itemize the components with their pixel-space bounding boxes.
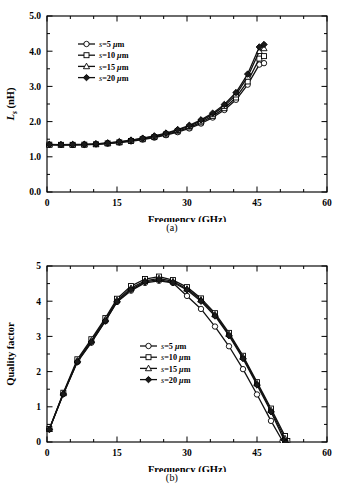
legend-label: s=5 μm [161,342,187,351]
y-tick-label: 4.0 [29,47,41,57]
series-marker [262,54,267,59]
svg-text:Quality factor: Quality factor [5,322,16,386]
legend-marker [146,343,151,348]
y-axis-title: Quality factor [5,322,16,386]
series-marker [212,324,217,329]
y-tick-label: 1 [36,402,41,412]
x-tick-labels: 015304560 [45,198,332,208]
series-marker [226,344,231,349]
series-marker [198,306,203,311]
legend-label: s=10 μm [99,51,129,60]
y-tick-label: 3.0 [29,82,41,92]
y-tick-label: 3 [36,332,41,342]
legend-label: s=20 μm [99,74,129,83]
legend-label: s=15 μm [161,365,191,374]
y-tick-label: 0.0 [29,187,41,197]
chart-panel-b: 015304560012345Frequency (GHz)Quality fa… [0,250,344,500]
legend-label: s=15 μm [99,63,129,72]
legend-marker [146,355,151,360]
y-tick-label: 2 [36,367,41,377]
y-tick-label: 5 [36,261,41,271]
x-tick-label: 0 [45,448,50,458]
legend-label: s=5 μm [99,40,125,49]
legend-marker [84,41,89,46]
legend-label: s=10 μm [161,353,191,362]
series-marker [240,366,245,371]
inductance-chart: 0153045600.01.02.03.04.05.0Frequency (GH… [0,0,344,222]
x-tick-labels: 015304560 [45,448,332,458]
x-tick-label: 45 [252,198,262,208]
y-tick-label: 4 [36,297,41,307]
x-axis-title: Frequency (GHz) [148,214,227,222]
legend-marker [84,53,89,58]
caption-a: (a) [0,222,344,233]
x-tick-label: 0 [45,198,50,208]
quality-factor-chart: 015304560012345Frequency (GHz)Quality fa… [0,250,344,472]
x-tick-label: 60 [322,448,332,458]
caption-b: (b) [0,472,344,483]
series-marker [268,418,273,423]
x-tick-label: 15 [112,448,122,458]
x-tick-label: 45 [252,448,262,458]
y-tick-label: 2.0 [29,117,41,127]
series-marker [254,392,259,397]
y-tick-label: 0 [36,437,41,447]
x-tick-label: 30 [182,448,192,458]
legend-label: s=20 μm [161,376,191,385]
figure-container: 0153045600.01.02.03.04.05.0Frequency (GH… [0,0,344,500]
y-axis-title: Ls (nH) [5,87,19,121]
x-tick-label: 15 [112,198,122,208]
series-marker [184,293,189,298]
chart-panel-a: 0153045600.01.02.03.04.05.0Frequency (GH… [0,0,344,250]
x-tick-label: 60 [322,198,332,208]
y-tick-label: 1.0 [29,152,41,162]
y-tick-labels: 012345 [36,261,41,447]
svg-text:Ls (nH): Ls (nH) [5,87,19,121]
y-tick-label: 5.0 [29,11,41,21]
x-axis-title: Frequency (GHz) [148,464,227,472]
x-tick-label: 30 [182,198,192,208]
y-tick-labels: 0.01.02.03.04.05.0 [29,11,41,197]
